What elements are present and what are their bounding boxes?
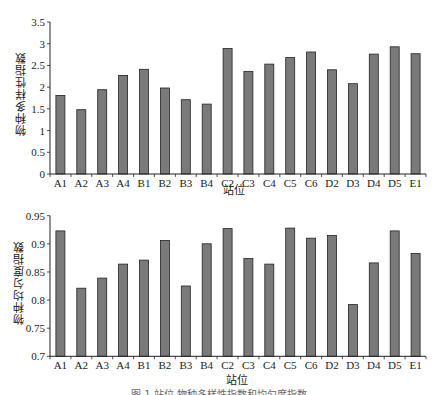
x-tick-label: A3 xyxy=(95,177,109,189)
x-tick-label: B2 xyxy=(158,177,171,189)
bar-b3 xyxy=(181,100,190,174)
x-tick-label: C6 xyxy=(305,359,318,371)
bar-c3 xyxy=(244,72,253,175)
bar-a2 xyxy=(77,110,86,174)
x-tick-label: B4 xyxy=(200,359,213,371)
x-tick-label: C2 xyxy=(221,359,234,371)
bar-c3 xyxy=(244,258,253,356)
bar-b4 xyxy=(202,244,211,356)
x-tick-label: D2 xyxy=(325,359,338,371)
figure-caption: 图 1 站位 物种多样性指数和均匀度指数 xyxy=(0,388,438,395)
x-tick-label: C4 xyxy=(263,359,276,371)
evenness-bar-plot: A1A2A3A4B1B2B3B4C2C3C4C5C6D2D3D4D5E10.70… xyxy=(0,197,438,375)
bar-d4 xyxy=(369,54,378,174)
x-tick-label: A1 xyxy=(54,359,67,371)
bar-d4 xyxy=(369,263,378,356)
bar-a4 xyxy=(119,75,128,174)
diversity-y-axis-title: 物种多样性指数 xyxy=(14,52,30,136)
bar-c4 xyxy=(265,64,274,174)
x-tick-label: D2 xyxy=(325,177,338,189)
x-tick-label: A1 xyxy=(54,177,67,189)
bar-d2 xyxy=(328,235,337,356)
x-tick-label: A2 xyxy=(75,177,88,189)
x-tick-label: B3 xyxy=(179,359,192,371)
x-tick-label: B2 xyxy=(158,359,171,371)
bar-c2 xyxy=(223,49,232,175)
evenness-y-axis-title: 物种均匀度指数 xyxy=(12,241,28,325)
bar-c6 xyxy=(307,238,316,356)
x-tick-label: D5 xyxy=(388,359,402,371)
y-tick-label: 2 xyxy=(40,81,46,93)
x-tick-label: C6 xyxy=(305,177,318,189)
x-tick-label: E1 xyxy=(409,359,421,371)
x-tick-label: B1 xyxy=(138,359,151,371)
y-tick-label: 3 xyxy=(40,38,46,50)
species-diversity-chart: A1A2A3A4B1B2B3B4C2C3C4C5C6D2D3D4D5E100.5… xyxy=(0,0,438,197)
bar-c4 xyxy=(265,264,274,356)
bar-a4 xyxy=(119,264,128,356)
y-tick-label: 0.75 xyxy=(26,322,46,334)
x-tick-label: D5 xyxy=(388,177,402,189)
y-tick-label: 0.5 xyxy=(31,146,45,158)
x-tick-label: A4 xyxy=(116,359,130,371)
bar-c5 xyxy=(286,228,295,356)
bar-b1 xyxy=(140,69,149,174)
bar-b2 xyxy=(160,88,169,174)
bar-a1 xyxy=(56,95,65,174)
bar-a3 xyxy=(98,278,107,356)
y-tick-label: 0 xyxy=(40,168,46,180)
bar-c6 xyxy=(307,52,316,174)
x-tick-label: C4 xyxy=(263,177,276,189)
bar-e1 xyxy=(411,54,420,174)
bar-d2 xyxy=(328,70,337,174)
bar-a1 xyxy=(56,231,65,356)
diversity-bar-plot: A1A2A3A4B1B2B3B4C2C3C4C5C6D2D3D4D5E100.5… xyxy=(0,0,438,197)
x-tick-label: E1 xyxy=(409,177,421,189)
y-tick-label: 2.5 xyxy=(31,59,45,71)
bar-e1 xyxy=(411,253,420,356)
bar-d5 xyxy=(390,47,399,174)
species-evenness-chart: A1A2A3A4B1B2B3B4C2C3C4C5C6D2D3D4D5E10.70… xyxy=(0,197,438,375)
diversity-x-axis-title: 站位 xyxy=(223,181,245,197)
y-tick-label: 0.8 xyxy=(31,294,45,306)
bar-d5 xyxy=(390,231,399,356)
bar-b3 xyxy=(181,286,190,356)
bar-a2 xyxy=(77,288,86,356)
x-tick-label: D4 xyxy=(367,359,381,371)
x-tick-label: D3 xyxy=(346,177,360,189)
y-tick-label: 3.5 xyxy=(31,16,45,28)
y-tick-label: 0.9 xyxy=(31,238,45,250)
x-tick-label: C5 xyxy=(284,359,297,371)
bar-b4 xyxy=(202,104,211,174)
bar-c5 xyxy=(286,58,295,174)
y-tick-label: 1.5 xyxy=(31,103,45,115)
x-tick-label: A4 xyxy=(116,177,130,189)
x-tick-label: B3 xyxy=(179,177,192,189)
y-tick-label: 0.7 xyxy=(31,350,45,362)
x-tick-label: C5 xyxy=(284,177,297,189)
evenness-x-axis-title: 站位 xyxy=(226,371,248,387)
bar-d3 xyxy=(348,84,357,174)
x-tick-label: A2 xyxy=(75,359,88,371)
x-tick-label: B4 xyxy=(200,177,213,189)
x-tick-label: C3 xyxy=(242,359,255,371)
y-tick-label: 1 xyxy=(40,125,46,137)
x-tick-label: D4 xyxy=(367,177,381,189)
x-tick-label: B1 xyxy=(138,177,151,189)
y-tick-label: 0.85 xyxy=(26,266,46,278)
x-tick-label: D3 xyxy=(346,359,360,371)
bar-a3 xyxy=(98,90,107,174)
x-tick-label: A3 xyxy=(95,359,109,371)
bar-b2 xyxy=(160,240,169,356)
y-tick-label: 0.95 xyxy=(26,210,46,222)
bar-b1 xyxy=(140,260,149,356)
bar-c2 xyxy=(223,229,232,357)
bar-d3 xyxy=(348,305,357,357)
